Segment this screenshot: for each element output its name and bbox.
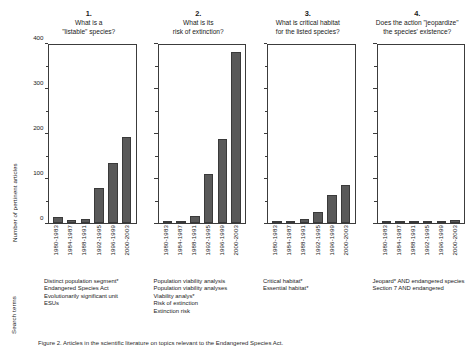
- bar: [94, 188, 104, 223]
- figure-caption: Figure 2. Articles in the scientific lit…: [38, 339, 458, 347]
- panel-2: 2.What is itsrisk of extinction?1980-198…: [144, 8, 254, 338]
- bar: [409, 221, 419, 223]
- panel-question-line-2: for the listed species?: [255, 28, 361, 37]
- bar: [382, 221, 392, 223]
- search-terms-list: Distinct population segment*Endangered S…: [44, 278, 144, 308]
- x-tick-label: 1980-1983: [52, 225, 62, 256]
- panel-question: Does the action "jeopardize"the species'…: [363, 19, 473, 41]
- search-term: Critical habitat*: [263, 278, 363, 285]
- y-tick-label: 300: [33, 80, 43, 86]
- y-axis: 0100200300400: [34, 44, 48, 224]
- search-term: Population viability analyses: [154, 285, 254, 292]
- x-tick-label: 1988-1991: [80, 225, 90, 256]
- bar: [450, 220, 460, 223]
- panel-question-line-1: What is critical habitat: [255, 19, 361, 28]
- bar-series: [270, 45, 353, 223]
- bar: [272, 221, 282, 223]
- panel-question: What is a"listable" species?: [34, 19, 144, 41]
- panel-question: What is itsrisk of extinction?: [144, 19, 254, 41]
- x-axis-labels: 1980-19831984-19871988-19911992-19951996…: [267, 224, 356, 274]
- bar: [67, 220, 77, 223]
- bar: [81, 219, 91, 223]
- x-tick-label: 1996-1999: [328, 225, 338, 256]
- search-term: Risk of extinction: [154, 300, 254, 307]
- x-tick-label: 1984-1987: [66, 225, 76, 256]
- search-term: Jeopard* AND endangered species: [373, 278, 473, 285]
- y-axis: [144, 44, 158, 224]
- panel-number: 3.: [253, 8, 363, 19]
- bar: [437, 221, 447, 223]
- x-tick-label: 2000-2003: [123, 225, 133, 256]
- panel-question: What is critical habitatfor the listed s…: [253, 19, 363, 41]
- search-term: Viability analys*: [154, 293, 254, 300]
- y-axis: [253, 44, 267, 224]
- x-tick-label: 1980-1983: [381, 225, 391, 256]
- panel-question-line-2: "listable" species?: [36, 28, 142, 37]
- x-tick-label: 1992-1995: [423, 225, 433, 256]
- panel-question-line-2: risk of extinction?: [146, 28, 252, 37]
- x-tick-label: 1992-1995: [95, 225, 105, 256]
- y-axis: [363, 44, 377, 224]
- panel-number: 2.: [144, 8, 254, 19]
- plot-area: [144, 44, 254, 224]
- x-tick-label: 2000-2003: [451, 225, 461, 256]
- bar: [327, 195, 337, 223]
- plot-area: 0100200300400: [34, 44, 144, 224]
- x-tick-label: 1980-1983: [162, 225, 172, 256]
- x-axis-labels: 1980-19831984-19871988-19911992-19951996…: [48, 224, 137, 274]
- y-axis-title: Number of pertinent articles: [11, 92, 18, 242]
- y-tick-label: 100: [33, 170, 43, 176]
- x-tick-label: 1988-1991: [409, 225, 419, 256]
- search-terms-list: Population viability analysisPopulation …: [154, 278, 254, 315]
- x-tick-label: 1984-1987: [176, 225, 186, 256]
- x-tick-label: 1988-1991: [190, 225, 200, 256]
- x-tick-label: 1988-1991: [299, 225, 309, 256]
- bar: [190, 216, 200, 223]
- bar: [218, 139, 228, 223]
- panel-row: 1.What is a"listable" species?0100200300…: [34, 8, 472, 338]
- x-tick-label: 1992-1995: [204, 225, 214, 256]
- panel-3: 3.What is critical habitatfor the listed…: [253, 8, 363, 338]
- x-tick-label: 1980-1983: [271, 225, 281, 256]
- x-tick-label: 1984-1987: [395, 225, 405, 256]
- x-axis-labels: 1980-19831984-19871988-19911992-19951996…: [377, 224, 466, 274]
- bar: [53, 217, 63, 223]
- plot-frame: [48, 44, 137, 224]
- panel-1: 1.What is a"listable" species?0100200300…: [34, 8, 144, 338]
- bar: [176, 221, 186, 223]
- search-term: Section 7 AND endangered: [373, 285, 473, 292]
- x-tick-label: 1992-1995: [314, 225, 324, 256]
- panel-question-line-2: the species' existence?: [365, 28, 471, 37]
- bar: [395, 221, 405, 223]
- search-terms-list: Jeopard* AND endangered speciesSection 7…: [373, 278, 473, 293]
- x-axis-labels: 1980-19831984-19871988-19911992-19951996…: [158, 224, 247, 274]
- bar: [163, 221, 173, 223]
- x-tick-label: 2000-2003: [342, 225, 352, 256]
- bar: [341, 185, 351, 223]
- bar: [204, 174, 214, 223]
- plot-area: [253, 44, 363, 224]
- search-term: ESUs: [44, 300, 144, 307]
- y-tick-label: 400: [33, 35, 43, 41]
- plot-frame: [158, 44, 247, 224]
- panel-question-line-1: What is its: [146, 19, 252, 28]
- bar-series: [161, 45, 244, 223]
- plot-area: [363, 44, 473, 224]
- panel-4: 4.Does the action "jeopardize"the specie…: [363, 8, 473, 338]
- panel-number: 4.: [363, 8, 473, 19]
- y-tick-label: 200: [33, 125, 43, 131]
- bar: [122, 137, 132, 223]
- y-tick-label: 0: [40, 215, 43, 221]
- search-term: Extinction risk: [154, 308, 254, 315]
- bar: [300, 219, 310, 223]
- bar-series: [51, 45, 134, 223]
- bar: [231, 52, 241, 223]
- search-term: Distinct population segment*: [44, 278, 144, 285]
- search-term: Population viability analysis: [154, 278, 254, 285]
- panel-question-line-1: What is a: [36, 19, 142, 28]
- panel-number: 1.: [34, 8, 144, 19]
- x-tick-label: 2000-2003: [232, 225, 242, 256]
- search-terms-row-label: Search terms: [10, 272, 17, 334]
- search-terms-list: Critical habitat*Essential habitat*: [263, 278, 363, 293]
